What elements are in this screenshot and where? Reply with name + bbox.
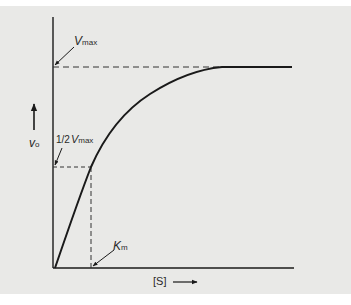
vmax-label: Vmax <box>74 35 97 47</box>
km-label: Km <box>113 240 128 252</box>
y-axis-label-sub: o <box>35 140 39 149</box>
km-label-main: K <box>113 239 121 253</box>
half-vmax-label: 1/2Vmax <box>56 134 93 145</box>
km-label-sub: m <box>121 243 128 252</box>
y-axis-label: vo <box>29 137 39 149</box>
vmax-pointer-arrow <box>55 47 74 65</box>
km-pointer-arrow <box>93 250 114 266</box>
half-vmax-pointer-arrow <box>55 148 62 165</box>
saturation-curve <box>55 67 292 268</box>
michaelis-menten-plot <box>0 0 351 305</box>
half-prefix: 1/2 <box>56 134 70 145</box>
half-vmax-sub: max <box>78 136 93 145</box>
vmax-label-sub: max <box>82 38 97 47</box>
x-axis-label: [S] <box>153 276 166 287</box>
vmax-label-main: V <box>74 34 82 48</box>
